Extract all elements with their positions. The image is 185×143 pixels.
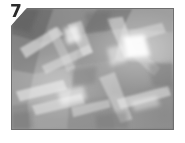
texture-facet-overlay bbox=[12, 9, 173, 129]
figure-root: 7 bbox=[0, 0, 185, 143]
figure-index-label: 7 bbox=[10, 3, 22, 20]
texture-image-panel bbox=[11, 8, 174, 130]
